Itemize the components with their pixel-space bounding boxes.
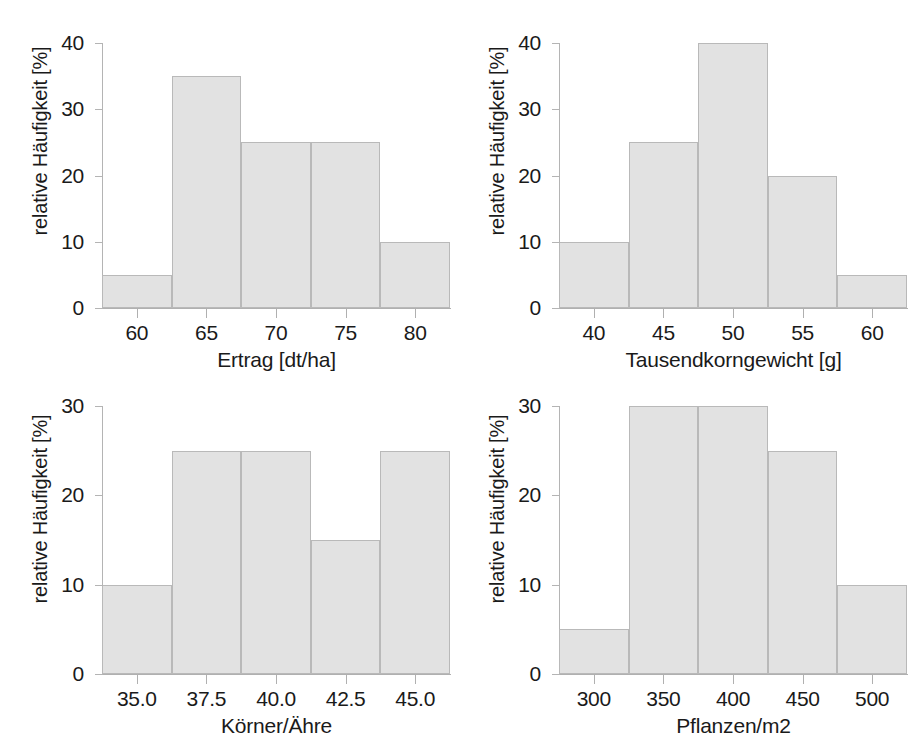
chart-panel-pflanzen-m2: 0102030 300350400450500 Pflanzen/m2 rela…: [457, 366, 913, 743]
x-tick-label: 55: [763, 322, 843, 344]
x-tick-mark: [137, 675, 138, 684]
x-tick-label: 60: [97, 322, 177, 344]
x-tick-label: 70: [236, 322, 316, 344]
plot-area: [102, 406, 450, 674]
histogram-bar: [241, 451, 311, 674]
x-axis-title: Pflanzen/m2: [559, 714, 908, 738]
y-tick-mark: [552, 308, 560, 309]
chart-panel-ertrag: 010203040 6065707580 Ertrag [dt/ha] rela…: [0, 0, 456, 377]
y-tick-mark: [95, 109, 103, 110]
histogram-bar: [768, 451, 838, 674]
y-tick-mark: [95, 674, 103, 675]
y-tick-mark: [552, 674, 560, 675]
chart-panel-tausendkorngewicht: 010203040 4045505560 Tausendkorngewicht …: [457, 0, 913, 377]
x-tick-label: 37.5: [166, 688, 246, 710]
x-tick-label: 40.0: [236, 688, 316, 710]
x-tick-label: 60: [832, 322, 912, 344]
x-tick-mark: [733, 309, 734, 318]
x-tick-label: 40: [554, 322, 634, 344]
x-tick-label: 42.5: [306, 688, 386, 710]
bars-group: [559, 43, 907, 308]
y-tick-mark: [552, 242, 560, 243]
x-tick-mark: [803, 675, 804, 684]
x-tick-mark: [206, 309, 207, 318]
x-tick-label: 450: [763, 688, 843, 710]
y-tick-mark: [95, 242, 103, 243]
histogram-bar: [172, 451, 242, 674]
x-tick-mark: [803, 309, 804, 318]
histogram-bar: [380, 242, 450, 308]
y-tick-mark: [552, 176, 560, 177]
x-tick-mark: [594, 309, 595, 318]
x-tick-label: 500: [832, 688, 912, 710]
y-tick-label: 0: [491, 663, 541, 684]
x-tick-label: 45: [623, 322, 703, 344]
x-tick-mark: [137, 309, 138, 318]
y-tick-mark: [552, 109, 560, 110]
y-tick-mark: [95, 176, 103, 177]
histogram-bar: [311, 540, 381, 674]
y-tick-mark: [552, 585, 560, 586]
x-tick-mark: [276, 675, 277, 684]
y-tick-mark: [552, 406, 560, 407]
histogram-bar: [837, 585, 907, 674]
y-tick-mark: [552, 495, 560, 496]
histogram-bar: [559, 629, 629, 674]
x-tick-mark: [733, 675, 734, 684]
y-tick-label: 0: [34, 663, 84, 684]
x-tick-label: 80: [375, 322, 455, 344]
x-axis-title: Körner/Ähre: [102, 714, 451, 738]
plot-area: [102, 43, 450, 308]
histogram-bar: [241, 142, 311, 308]
x-tick-mark: [872, 309, 873, 318]
x-tick-mark: [415, 309, 416, 318]
x-tick-label: 300: [554, 688, 634, 710]
plot-area: [559, 406, 907, 674]
x-tick-mark: [872, 675, 873, 684]
x-tick-label: 400: [693, 688, 773, 710]
histogram-bar: [629, 142, 699, 308]
x-tick-label: 35.0: [97, 688, 177, 710]
chart-panel-koerner-aehre: 0102030 35.037.540.042.545.0 Körner/Ähre…: [0, 366, 456, 743]
histogram-bar: [380, 451, 450, 674]
bars-group: [559, 406, 907, 674]
x-tick-mark: [415, 675, 416, 684]
histogram-bar: [698, 406, 768, 674]
y-tick-mark: [552, 43, 560, 44]
histogram-bar: [837, 275, 907, 308]
histogram-bar: [102, 275, 172, 308]
histogram-bar: [172, 76, 242, 308]
histogram-bar: [102, 585, 172, 674]
y-axis-title: relative Häufigkeit [%]: [29, 0, 51, 286]
histogram-bar: [629, 406, 699, 674]
histogram-bar: [311, 142, 381, 308]
y-axis-title: relative Häufigkeit [%]: [486, 364, 508, 654]
plot-area: [559, 43, 907, 308]
x-tick-mark: [206, 675, 207, 684]
x-tick-label: 50: [693, 322, 773, 344]
y-tick-mark: [95, 308, 103, 309]
bars-group: [102, 43, 450, 308]
y-tick-mark: [95, 585, 103, 586]
x-tick-mark: [346, 309, 347, 318]
bars-group: [102, 406, 450, 674]
y-tick-mark: [95, 43, 103, 44]
x-tick-mark: [346, 675, 347, 684]
y-axis-title: relative Häufigkeit [%]: [29, 364, 51, 654]
x-tick-label: 350: [623, 688, 703, 710]
x-tick-mark: [594, 675, 595, 684]
histogram-bar: [559, 242, 629, 308]
histogram-figure: 010203040 6065707580 Ertrag [dt/ha] rela…: [0, 0, 913, 755]
y-tick-mark: [95, 406, 103, 407]
y-tick-mark: [95, 495, 103, 496]
y-axis-title: relative Häufigkeit [%]: [486, 0, 508, 286]
x-tick-mark: [663, 675, 664, 684]
x-tick-label: 75: [306, 322, 386, 344]
x-tick-label: 45.0: [375, 688, 455, 710]
y-tick-label: 0: [34, 297, 84, 318]
y-tick-label: 0: [491, 297, 541, 318]
histogram-bar: [698, 43, 768, 308]
x-tick-mark: [663, 309, 664, 318]
histogram-bar: [768, 176, 838, 309]
x-tick-label: 65: [166, 322, 246, 344]
